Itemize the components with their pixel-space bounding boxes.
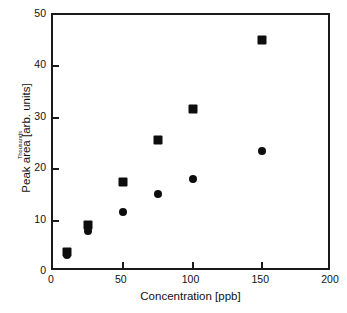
x-axis-tick-label: 0 bbox=[48, 273, 54, 285]
y-axis-tick-label: 10 bbox=[34, 213, 46, 225]
x-axis-title: Concentration [ppb] bbox=[51, 290, 330, 302]
x-axis-tick bbox=[122, 262, 124, 268]
y-axis-tick-label: 0 bbox=[40, 264, 46, 276]
y-axis-tick bbox=[53, 117, 59, 119]
x-axis-tick-label: 150 bbox=[251, 273, 269, 285]
x-axis-tick bbox=[261, 262, 263, 268]
scatter-chart: 01020304050 050100150200 Peak area [arb.… bbox=[0, 0, 347, 313]
y-axis-tick bbox=[53, 65, 59, 67]
x-axis-tick-label: 200 bbox=[321, 273, 339, 285]
plot-area bbox=[53, 15, 328, 268]
y-axis-tick bbox=[53, 220, 59, 222]
data-point-circle bbox=[63, 251, 71, 259]
data-point-circle bbox=[189, 175, 197, 183]
data-point-square bbox=[258, 35, 267, 44]
data-point-square bbox=[153, 135, 162, 144]
x-axis-tick-labels: 050100150200 bbox=[51, 273, 330, 287]
y-axis-tick-label: 20 bbox=[34, 161, 46, 173]
data-point-circle bbox=[154, 190, 162, 198]
data-point-square bbox=[118, 178, 127, 187]
y-axis-tick-label: 30 bbox=[34, 110, 46, 122]
y-axis-tick bbox=[53, 168, 59, 170]
data-point-circle bbox=[119, 208, 127, 216]
y-axis-tick-label: 50 bbox=[34, 7, 46, 19]
x-axis-tick bbox=[192, 262, 194, 268]
data-point-circle bbox=[84, 227, 92, 235]
data-point-circle bbox=[258, 147, 266, 155]
plot-frame bbox=[51, 13, 330, 270]
x-axis-tick-label: 50 bbox=[115, 273, 127, 285]
y-axis-tick-label: 40 bbox=[34, 58, 46, 70]
data-point-square bbox=[188, 105, 197, 114]
x-axis-tick-label: 100 bbox=[182, 273, 200, 285]
y-axis-unit-note: Thousands bbox=[17, 115, 23, 175]
